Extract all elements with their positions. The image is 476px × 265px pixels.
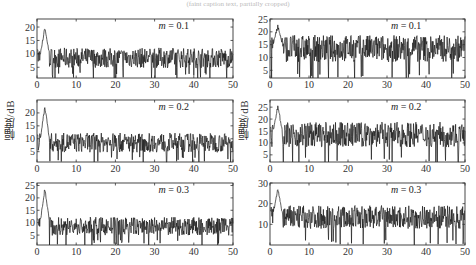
y-tick-label: 25 [258,14,268,25]
x-tick-label: 10 [304,79,314,90]
m-annotation: m = 0.1 [159,20,189,31]
x-tick-label: 0 [35,246,40,257]
y-tick-label: 25 [258,102,268,113]
x-tick-label: 20 [343,79,353,90]
x-tick-label: 0 [35,79,40,90]
y-tick-label: 20 [25,22,35,33]
y-tick-label: 15 [258,39,268,50]
y-tick-label: 10 [258,137,268,148]
x-tick-label: 0 [268,163,273,174]
chart-panel-right-bottom: 01020304050102030m = 0.3 [258,178,470,258]
y-tick-label: 5 [30,62,35,73]
y-tick-label: 30 [258,178,268,189]
signal-line [270,25,465,78]
x-tick-label: 30 [150,246,160,257]
x-tick-label: 40 [421,246,431,257]
chart-panel-right-middle: 01020304050510152025m = 0.2 [258,100,470,174]
plot-frame [37,19,233,78]
x-tick-label: 10 [71,79,81,90]
y-tick-label: 10 [25,217,35,228]
y-tick-label: 15 [25,35,35,46]
y-tick-label: 10 [258,219,268,230]
y-tick-label: 15 [258,126,268,137]
chart-panel-left-bottom: 01020304050510152025m = 0.3 [25,180,238,257]
x-tick-label: 30 [382,163,392,174]
x-tick-label: 30 [382,79,392,90]
y-tick-label: 20 [25,192,35,203]
y-tick-label: 25 [25,180,35,191]
x-tick-label: 30 [382,246,392,257]
x-tick-label: 50 [228,163,238,174]
x-tick-label: 40 [421,79,431,90]
x-tick-label: 50 [460,79,470,90]
y-tick-label: 5 [263,149,268,160]
chart-panel-right-top: 01020304050510152025m = 0.1 [258,14,470,91]
signal-line [270,106,465,162]
chart-panel-left-top: 010203040505101520m = 0.1 [25,19,238,90]
x-tick-label: 20 [110,246,120,257]
x-tick-label: 10 [71,246,81,257]
y-tick-label: 15 [25,205,35,216]
x-tick-label: 10 [304,163,314,174]
x-tick-label: 20 [343,163,353,174]
x-tick-label: 20 [343,246,353,257]
x-tick-label: 50 [460,246,470,257]
x-tick-label: 30 [150,79,160,90]
x-tick-label: 50 [228,246,238,257]
x-tick-label: 50 [228,79,238,90]
m-annotation: m = 0.3 [159,184,189,195]
x-tick-label: 0 [35,163,40,174]
signal-line [37,108,233,162]
x-tick-label: 40 [421,163,431,174]
x-tick-label: 50 [460,163,470,174]
y-tick-label: 10 [25,133,35,144]
y-tick-label: 20 [258,198,268,209]
plot-frame [37,100,233,162]
m-annotation: m = 0.1 [391,20,421,31]
y-axis-label-right: 幅度/dB [236,100,252,140]
y-tick-label: 5 [30,146,35,157]
y-tick-label: 20 [258,26,268,37]
signal-line [270,190,465,245]
y-tick-label: 5 [263,65,268,76]
y-tick-label: 10 [25,48,35,59]
x-tick-label: 40 [189,79,199,90]
x-tick-label: 10 [71,163,81,174]
signal-line [37,190,233,245]
x-tick-label: 40 [189,246,199,257]
x-tick-label: 20 [110,79,120,90]
x-tick-label: 0 [268,246,273,257]
y-tick-label: 10 [258,52,268,63]
x-tick-label: 0 [268,79,273,90]
y-tick-label: 20 [25,107,35,118]
signal-line [37,29,233,78]
y-tick-label: 5 [30,230,35,241]
chart-panel-left-middle: 010203040505101520m = 0.2 [25,100,238,174]
x-tick-label: 40 [189,163,199,174]
x-tick-label: 30 [150,163,160,174]
x-tick-label: 20 [110,163,120,174]
y-axis-label-left: 幅度/dB [2,100,18,140]
m-annotation: m = 0.2 [391,101,421,112]
m-annotation: m = 0.2 [159,101,189,112]
y-tick-label: 20 [258,114,268,125]
x-tick-label: 10 [304,246,314,257]
m-annotation: m = 0.3 [391,184,421,195]
y-tick-label: 15 [25,120,35,131]
